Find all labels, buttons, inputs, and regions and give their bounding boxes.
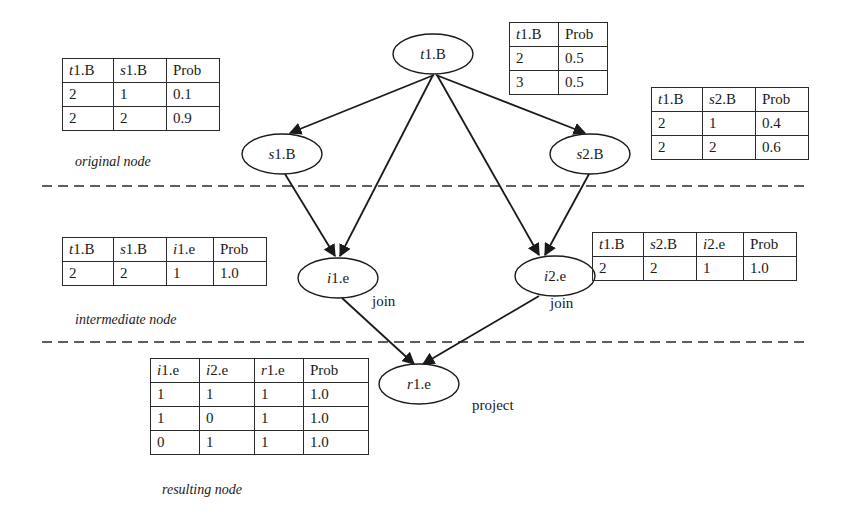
table-header-row: t1.B s2.B Prob [652,88,809,112]
table-cell: 2 [63,83,114,107]
table-cell: 2 [652,136,703,160]
table-header-cell: t1.B [652,88,703,112]
table-header-cell: s2.B [644,233,697,257]
table-header-cell: Prob [559,23,608,47]
table-header-row: t1.B s1.B Prob [63,59,220,83]
table-header-cell: Prob [214,238,267,262]
table-header-cell: r1.e [255,359,304,383]
table-cell: 0.1 [167,83,220,107]
table-row: 0 1 1 1.0 [151,431,369,455]
table-cell: 1 [151,383,200,407]
op-label-i2e-join: join [550,295,573,312]
table-row: 3 0.5 [510,71,608,95]
table-header-cell: i2.e [697,233,744,257]
table-r1e-cpt: i1.e i2.e r1.e Prob 1 1 1 1.0 1 0 1 1.0 … [150,358,369,455]
edge-i2e-r1e [423,296,539,364]
table-header-cell: s1.B [114,59,167,83]
table-cell: 1 [200,383,255,407]
table-cell: 1 [200,431,255,455]
table-cell: 1 [167,262,214,286]
table-cell: 2 [114,107,167,131]
table-cell: 0.9 [167,107,220,131]
table-cell: 2 [63,107,114,131]
table-cell: 1 [703,112,756,136]
node-label-s2B: s2.B [576,146,603,163]
table-header-cell: Prob [304,359,369,383]
table-cell: 2 [510,47,559,71]
table-cell: 1.0 [304,383,369,407]
table-cell: 1 [151,407,200,431]
edge-t1B-s1B [290,75,434,133]
table-cell: 3 [510,71,559,95]
table-row: 1 1 1 1.0 [151,383,369,407]
table-row: 2 2 0.9 [63,107,220,131]
table-cell: 0.5 [559,71,608,95]
table-header-cell: s2.B [703,88,756,112]
layer-label-resulting: resulting node [162,482,242,498]
table-header-row: t1.B s2.B i2.e Prob [593,233,797,257]
table-cell: 0 [200,407,255,431]
table-header-cell: Prob [756,88,809,112]
table-header-cell: t1.B [510,23,559,47]
table-header-cell: s1.B [114,238,167,262]
table-row: 2 2 0.6 [652,136,809,160]
table-header-cell: i2.e [200,359,255,383]
table-s1B-cpt: t1.B s1.B Prob 2 1 0.1 2 2 0.9 [62,58,220,131]
table-row: 2 1 0.1 [63,83,220,107]
edge-t1B-i1e [340,75,433,256]
table-header-cell: t1.B [63,59,114,83]
table-cell: 2 [652,112,703,136]
table-row: 2 2 1 1.0 [593,257,797,281]
node-label-i2e: i2.e [544,268,566,285]
table-cell: 1 [255,407,304,431]
edge-s1B-i1e [285,174,335,256]
table-cell: 1.0 [304,431,369,455]
table-row: 2 2 1 1.0 [63,262,267,286]
layer-label-intermediate: intermediate node [75,312,176,328]
table-header-row: t1.B s1.B i1.e Prob [63,238,267,262]
node-label-t1B: t1.B [420,46,445,63]
table-row: 1 0 1 1.0 [151,407,369,431]
table-cell: 1.0 [744,257,797,281]
table-t1B-prior: t1.B Prob 2 0.5 3 0.5 [509,22,608,95]
table-s2B-cpt: t1.B s2.B Prob 2 1 0.4 2 2 0.6 [651,87,809,160]
table-header-cell: Prob [744,233,797,257]
table-cell: 1.0 [214,262,267,286]
table-header-row: i1.e i2.e r1.e Prob [151,359,369,383]
table-cell: 2 [644,257,697,281]
node-label-r1e: r1.e [407,376,431,393]
table-cell: 1 [114,83,167,107]
table-header-cell: i1.e [151,359,200,383]
table-row: 2 1 0.4 [652,112,809,136]
table-header-cell: i1.e [167,238,214,262]
table-header-row: t1.B Prob [510,23,608,47]
table-cell: 2 [63,262,114,286]
table-i1e-cpt: t1.B s1.B i1.e Prob 2 2 1 1.0 [62,237,267,286]
table-cell: 1 [697,257,744,281]
table-header-cell: t1.B [63,238,114,262]
node-label-s1B: s1.B [268,146,295,163]
table-cell: 1.0 [304,407,369,431]
table-cell: 2 [703,136,756,160]
edge-t1B-i2e [437,75,539,255]
table-row: 2 0.5 [510,47,608,71]
table-cell: 2 [114,262,167,286]
table-cell: 0 [151,431,200,455]
layer-label-original: original node [75,154,151,170]
table-cell: 2 [593,257,644,281]
table-i2e-cpt: t1.B s2.B i2.e Prob 2 2 1 1.0 [592,232,797,281]
table-cell: 0.4 [756,112,809,136]
table-cell: 1 [255,431,304,455]
op-label-i1e-join: join [372,293,395,310]
table-header-cell: Prob [167,59,220,83]
table-cell: 0.6 [756,136,809,160]
node-label-i1e: i1.e [327,270,349,287]
table-header-cell: t1.B [593,233,644,257]
table-cell: 0.5 [559,47,608,71]
table-cell: 1 [255,383,304,407]
op-label-r1e-project: project [472,397,514,414]
edge-s2B-i2e [545,174,589,255]
